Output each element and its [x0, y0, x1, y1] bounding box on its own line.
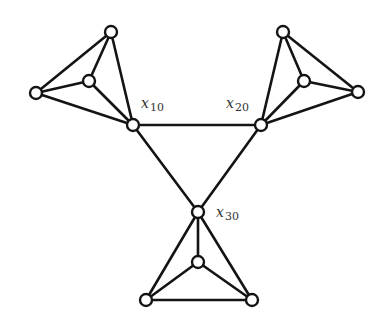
label-variable: x [141, 95, 149, 111]
node-a_in [83, 75, 95, 87]
label-x30: x30 [216, 204, 239, 223]
node-b_in [298, 75, 310, 87]
node-c_in [192, 256, 204, 268]
node-x10 [127, 119, 139, 131]
graph-diagram: x10x20x30 [0, 0, 383, 328]
edge-c_in-c_left [146, 262, 198, 300]
label-subscript: 30 [225, 210, 239, 223]
edge-x20-b_top [261, 32, 283, 125]
label-subscript: 10 [150, 101, 164, 114]
edge-b_top-b_right [283, 32, 358, 92]
edge-x30-c_right [198, 212, 252, 300]
node-c_right [246, 294, 258, 306]
label-x20: x20 [226, 95, 249, 114]
edge-c_in-c_right [198, 262, 252, 300]
edge-x10-x30 [133, 125, 198, 212]
node-a_left [30, 87, 42, 99]
node-b_top [277, 26, 289, 38]
edge-x20-x30 [198, 125, 261, 212]
label-x10: x10 [141, 95, 164, 114]
node-b_right [352, 86, 364, 98]
edge-x10-a_top [111, 32, 133, 125]
node-x20 [255, 119, 267, 131]
label-variable: x [226, 95, 234, 111]
label-subscript: 20 [235, 101, 249, 114]
node-a_top [105, 26, 117, 38]
edge-x30-c_left [146, 212, 198, 300]
node-x30 [192, 206, 204, 218]
node-c_left [140, 294, 152, 306]
label-variable: x [216, 204, 224, 220]
nodes-layer [30, 26, 364, 306]
